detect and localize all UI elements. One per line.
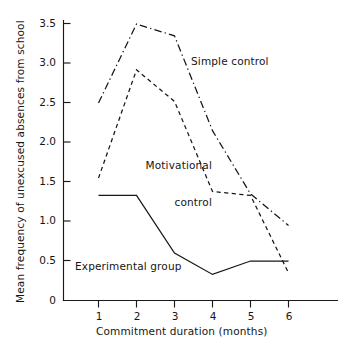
x-axis-title: Commitment duration (months) — [96, 325, 268, 337]
y-tick-label: 2.5 — [22, 96, 56, 108]
y-axis-ticks — [64, 24, 71, 261]
y-tick-label: 2.0 — [22, 135, 56, 147]
series-label-line1: Motivational — [118, 159, 212, 171]
series-label-line2: control — [118, 196, 212, 208]
series-label-motivational-control: Motivational control — [118, 134, 212, 233]
y-tick-label: 3.0 — [22, 56, 56, 68]
x-tick-label: 2 — [128, 310, 146, 322]
y-tick-label: 0 — [22, 294, 56, 306]
series-label-simple-control: Simple control — [191, 55, 269, 67]
y-tick-label: 0.5 — [22, 254, 56, 266]
x-tick-label: 1 — [90, 310, 108, 322]
y-tick-label: 1.5 — [22, 175, 56, 187]
x-tick-label: 5 — [242, 310, 260, 322]
x-tick-label: 3 — [166, 310, 184, 322]
x-axis-ticks — [99, 301, 289, 308]
series-label-experimental-group: Experimental group — [75, 260, 182, 272]
y-tick-label: 3.5 — [22, 17, 56, 29]
y-axis-title: Mean frequency of unexcused absences fro… — [14, 20, 26, 303]
y-tick-label: 1.0 — [22, 214, 56, 226]
x-tick-label: 6 — [280, 310, 298, 322]
chart-figure: 3.5 3.0 2.5 2.0 1.5 1.0 0.5 0 1 2 3 4 5 … — [0, 0, 353, 349]
x-tick-label: 4 — [204, 310, 222, 322]
